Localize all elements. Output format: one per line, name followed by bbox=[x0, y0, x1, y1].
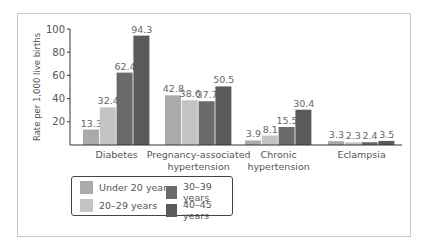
x-category-label: Eclampsia bbox=[337, 149, 385, 160]
bar bbox=[328, 141, 344, 145]
bar bbox=[262, 136, 278, 145]
bar bbox=[279, 127, 295, 145]
legend: Under 20 years 20–29 years 30–39 years 4… bbox=[71, 176, 233, 216]
bar bbox=[245, 140, 261, 145]
bar-value-label: 2.4 bbox=[362, 130, 377, 141]
legend-item-20-29: 20–29 years bbox=[80, 199, 157, 212]
y-tick-label: 80 bbox=[52, 47, 65, 58]
legend-swatch bbox=[80, 199, 93, 212]
bar-value-label: 32.4 bbox=[98, 95, 119, 106]
x-category-label: hypertension bbox=[167, 161, 229, 172]
bar bbox=[199, 101, 215, 145]
bar bbox=[117, 73, 133, 145]
bar bbox=[165, 95, 181, 145]
x-category-label: Chronic bbox=[261, 149, 297, 160]
bar-value-label: 3.3 bbox=[329, 129, 344, 140]
bar-value-label: 62.4 bbox=[114, 61, 135, 72]
bar-value-label: 50.5 bbox=[213, 74, 234, 85]
x-category-label: hypertension bbox=[247, 161, 309, 172]
bar-value-label: 15.5 bbox=[276, 115, 297, 126]
bar bbox=[295, 110, 311, 145]
y-tick-label: 20 bbox=[52, 116, 65, 127]
bar-value-label: 30.4 bbox=[293, 98, 314, 109]
y-tick-label: 100 bbox=[46, 24, 65, 35]
bar-value-label: 2.3 bbox=[346, 130, 361, 141]
legend-item-under-20: Under 20 years bbox=[80, 181, 172, 194]
legend-label: 20–29 years bbox=[99, 200, 157, 211]
y-axis-label: Rate per 1,000 live births bbox=[32, 32, 42, 141]
bar bbox=[182, 100, 198, 145]
bar bbox=[83, 130, 99, 145]
bar-value-label: 37.7 bbox=[196, 89, 217, 100]
bar-value-label: 3.9 bbox=[246, 128, 261, 139]
y-tick-label: 60 bbox=[52, 70, 65, 81]
bar bbox=[100, 107, 116, 145]
bar bbox=[215, 86, 231, 145]
y-tick-label: 40 bbox=[52, 93, 65, 104]
legend-swatch bbox=[166, 186, 177, 199]
legend-swatch bbox=[80, 181, 93, 194]
bar-value-label: 13.3 bbox=[81, 118, 102, 129]
x-category-label: Diabetes bbox=[96, 149, 138, 160]
legend-label: Under 20 years bbox=[99, 182, 172, 193]
legend-label: 40–45 years bbox=[183, 199, 232, 221]
legend-item-40-45: 40–45 years bbox=[166, 199, 232, 221]
bar-value-label: 3.5 bbox=[379, 129, 394, 140]
legend-swatch bbox=[166, 204, 177, 217]
x-category-label: Pregnancy-associated bbox=[147, 149, 251, 160]
bar bbox=[133, 36, 149, 145]
bar-value-label: 94.3 bbox=[131, 24, 152, 35]
bar bbox=[378, 141, 394, 145]
